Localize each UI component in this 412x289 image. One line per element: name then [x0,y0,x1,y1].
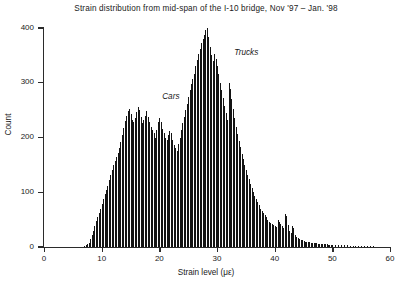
y-axis-label: Count [4,95,13,155]
annotation-cars: Cars [162,92,179,101]
y-tick [38,137,44,138]
x-tick [390,247,391,252]
y-tick-label: 400 [0,23,34,32]
x-tick [44,247,45,252]
y-tick-label: 300 [0,77,34,86]
chart-title: Strain distribution from mid-span of the… [0,4,412,13]
chart-figure: Strain distribution from mid-span of the… [0,0,412,289]
y-tick-label: 100 [0,187,34,196]
y-tick [38,82,44,83]
x-tick-label: 60 [375,254,405,263]
plot-area [44,28,390,247]
x-tick-label: 0 [29,254,59,263]
x-tick [332,247,333,252]
x-tick-label: 40 [260,254,290,263]
x-tick [275,247,276,252]
x-tick [159,247,160,252]
x-tick-label: 10 [87,254,117,263]
y-tick-label: 0 [0,242,34,251]
x-tick [102,247,103,252]
histogram-bars [44,28,390,247]
x-axis-label: Strain level (με) [0,268,412,277]
x-tick-label: 30 [202,254,232,263]
annotation-trucks: Trucks [234,48,258,57]
y-tick [38,192,44,193]
x-tick [217,247,218,252]
x-tick-label: 50 [317,254,347,263]
y-tick [38,27,44,28]
x-tick-label: 20 [144,254,174,263]
